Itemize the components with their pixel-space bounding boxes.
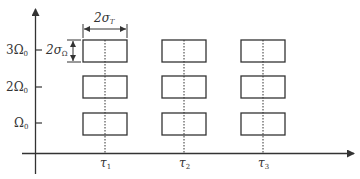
height-dimension <box>67 40 81 62</box>
x-label-tau3-main: τ <box>258 156 265 170</box>
x-label-tau1-main: τ <box>100 156 107 170</box>
tile-column-tau2 <box>162 40 206 135</box>
time-frequency-diagram: 3Ω0 2Ω0 Ω0 τ1 τ2 τ3 2σT 2σΩ <box>0 0 360 179</box>
y-label-2omega: 2Ω0 <box>6 81 28 97</box>
y-label-2omega-main: 2Ω <box>6 80 24 94</box>
diagram-canvas <box>0 0 360 179</box>
width-dimension-label: 2σT <box>94 12 115 28</box>
dotted-guides <box>105 40 263 153</box>
height-dimension-label: 2σΩ <box>46 44 68 60</box>
tile-column-tau1 <box>83 40 127 135</box>
x-label-tau3: τ3 <box>258 157 269 173</box>
y-label-2omega-sub: 0 <box>24 87 28 95</box>
x-label-tau1: τ1 <box>100 157 111 173</box>
y-label-omega: Ω0 <box>14 117 28 133</box>
width-dim-label-main: 2σ <box>94 11 110 25</box>
tile-column-tau3 <box>241 40 285 135</box>
y-label-3omega-main: 3Ω <box>6 43 24 57</box>
y-label-3omega: 3Ω0 <box>6 44 28 60</box>
y-label-3omega-sub: 0 <box>24 50 28 58</box>
x-label-tau1-sub: 1 <box>107 163 111 171</box>
y-label-omega-sub: 0 <box>24 123 28 131</box>
y-axis <box>36 9 43 174</box>
height-dim-label-main: 2σ <box>46 43 62 57</box>
x-label-tau2-sub: 2 <box>186 163 190 171</box>
height-dim-label-sub: Ω <box>62 50 68 58</box>
x-label-tau3-sub: 3 <box>265 163 269 171</box>
x-label-tau2-main: τ <box>179 156 186 170</box>
width-dim-label-sub: T <box>110 18 115 26</box>
y-label-omega-main: Ω <box>14 116 24 130</box>
x-label-tau2: τ2 <box>179 157 190 173</box>
